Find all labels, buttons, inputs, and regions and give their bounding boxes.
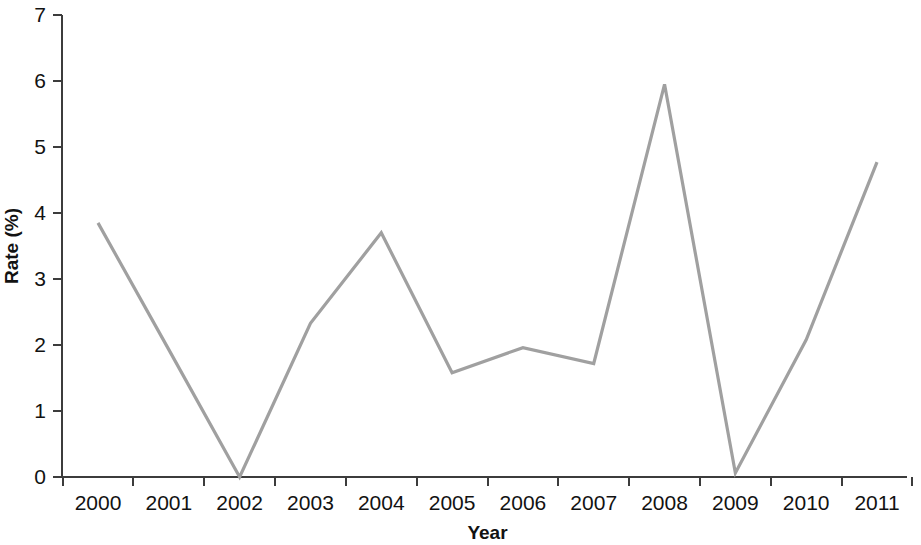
- y-tick-label-3: 3: [34, 267, 46, 290]
- y-tick-label-1: 1: [34, 399, 46, 422]
- x-tick-label-2003: 2003: [287, 491, 334, 514]
- x-tick-label-2006: 2006: [500, 491, 547, 514]
- y-tick-label-0: 0: [34, 465, 46, 488]
- x-tick-label-2007: 2007: [570, 491, 617, 514]
- chart-canvas: 0123456720002001200220032004200520062007…: [0, 0, 921, 545]
- data-series-rate: [98, 84, 877, 477]
- x-tick-label-2004: 2004: [358, 491, 405, 514]
- y-tick-label-6: 6: [34, 69, 46, 92]
- x-tick-label-2011: 2011: [854, 491, 899, 514]
- x-tick-label-2010: 2010: [783, 491, 830, 514]
- y-tick-label-7: 7: [34, 3, 46, 26]
- y-tick-label-2: 2: [34, 333, 46, 356]
- x-tick-label-2001: 2001: [145, 491, 192, 514]
- y-tick-label-4: 4: [34, 201, 46, 224]
- y-tick-label-5: 5: [34, 135, 46, 158]
- line-chart: 0123456720002001200220032004200520062007…: [0, 0, 921, 545]
- x-tick-label-2002: 2002: [216, 491, 263, 514]
- x-tick-label-2008: 2008: [641, 491, 688, 514]
- x-axis-title: Year: [467, 522, 508, 543]
- x-tick-label-2000: 2000: [75, 491, 122, 514]
- y-axis-title: Rate (%): [1, 208, 22, 284]
- x-tick-label-2005: 2005: [429, 491, 476, 514]
- x-tick-label-2009: 2009: [712, 491, 759, 514]
